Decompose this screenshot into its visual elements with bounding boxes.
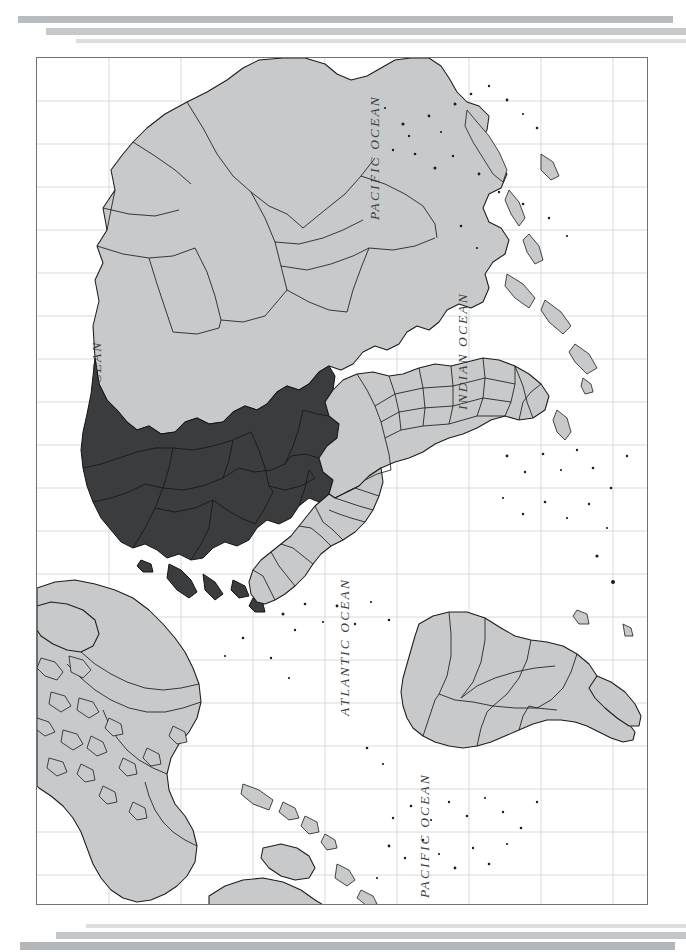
header-rule-mid — [46, 28, 686, 35]
document-page: .land{fill:#c8c9ca;stroke:#1c1c1c;stroke… — [0, 0, 686, 952]
landmass-south-america — [401, 554, 641, 748]
map-geometry: .land{fill:#c8c9ca;stroke:#1c1c1c;stroke… — [37, 58, 648, 905]
oceania-small-islands — [366, 747, 538, 879]
south-atlantic-islands — [573, 554, 633, 636]
world-map: .land{fill:#c8c9ca;stroke:#1c1c1c;stroke… — [36, 57, 648, 905]
indian-ocean-small-islands — [502, 449, 628, 529]
caribbean-islands — [241, 784, 337, 850]
footer-rule-dark — [20, 942, 675, 950]
header-rule-light — [76, 39, 686, 43]
header-rule-dark — [18, 16, 673, 23]
footer-rule-light — [86, 924, 686, 928]
landmass-oceania — [209, 747, 538, 905]
atlantic-small-islands — [224, 601, 390, 679]
footer-rule-mid — [56, 932, 686, 939]
